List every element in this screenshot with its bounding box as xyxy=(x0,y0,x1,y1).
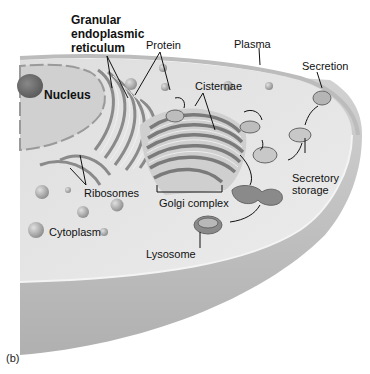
label-granular-er: Granular endoplasmic reticulum xyxy=(71,13,144,55)
label-golgi-complex: Golgi complex xyxy=(159,197,229,209)
nucleolus xyxy=(17,74,43,98)
golgi-complex xyxy=(140,109,246,195)
label-secretion: Secretion xyxy=(302,60,348,72)
label-nucleus: Nucleus xyxy=(44,88,91,102)
label-ribosomes: Ribosomes xyxy=(84,187,139,199)
label-cytoplasm: Cytoplasm xyxy=(49,226,101,238)
label-lysosome: Lysosome xyxy=(146,248,196,260)
label-protein: Protein xyxy=(146,39,181,51)
panel-label: (b) xyxy=(6,352,19,364)
label-cisternae: Cisternae xyxy=(195,80,242,92)
label-plasma: Plasma xyxy=(234,38,271,50)
label-secretory-storage: Secretory storage xyxy=(292,172,339,196)
